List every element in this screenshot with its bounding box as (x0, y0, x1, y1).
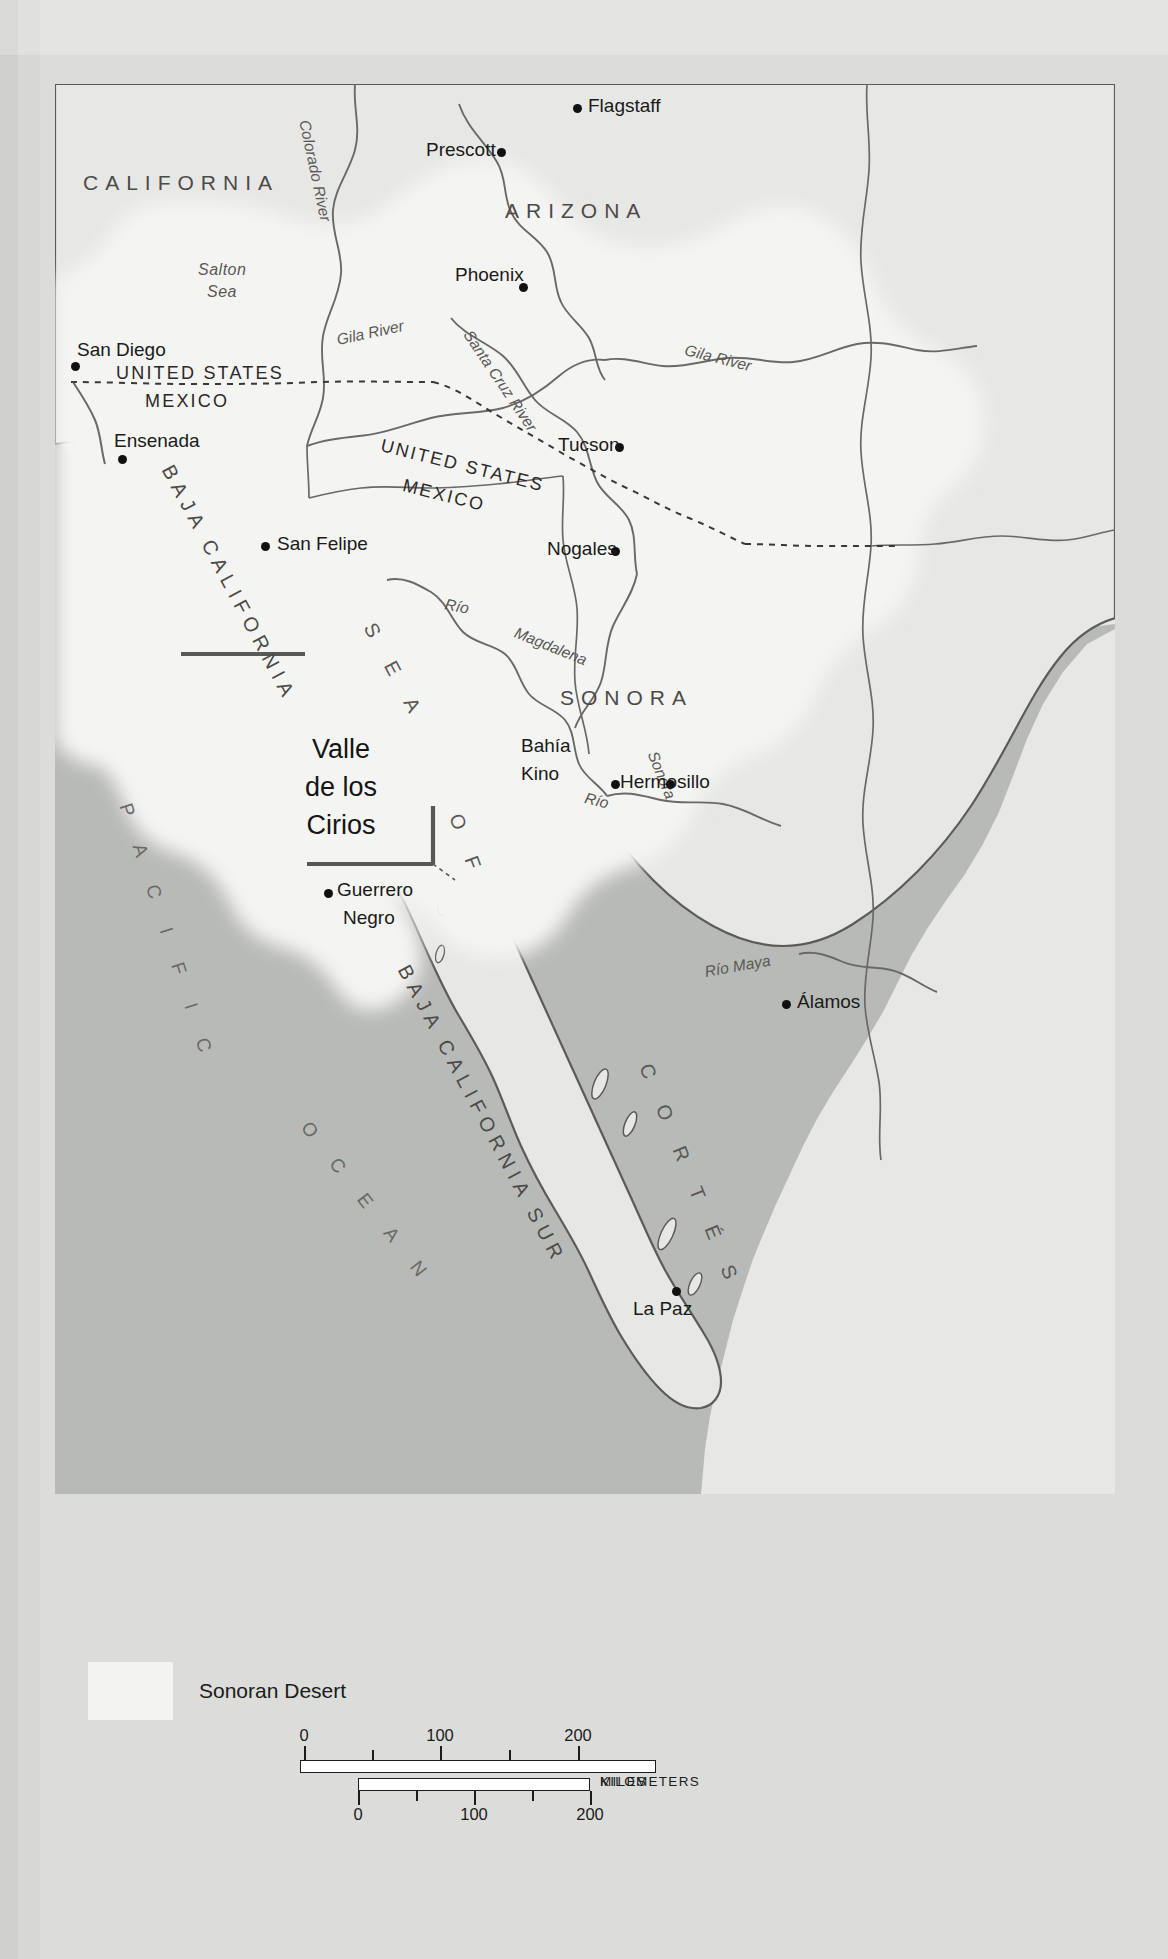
reserve-label-line3: Cirios (271, 808, 411, 843)
city-dot-san-felipe[interactable] (261, 542, 270, 551)
city-dot-san-diego[interactable] (71, 362, 80, 371)
scale-km-label-200: 200 (576, 1805, 604, 1824)
city-dot-bahia-kino[interactable] (611, 780, 620, 789)
reserve-label-line2: de los (271, 770, 411, 805)
salton-sea-label-line1: Salton (198, 262, 246, 279)
city-label-alamos: Álamos (797, 992, 860, 1012)
legend: Sonoran Desert (88, 1662, 346, 1720)
map-page: CALIFORNIA ARIZONA SONORA BAJA CALIFORNI… (0, 0, 1168, 1959)
city-label-san-felipe: San Felipe (277, 534, 368, 554)
scale-unit-kilometers: KILOMETERS (600, 1774, 700, 1789)
reserve-label-line1: Valle (271, 732, 411, 767)
city-label-prescott: Prescott (426, 140, 496, 160)
city-dot-prescott[interactable] (497, 148, 506, 157)
legend-swatch-sonoran-desert (88, 1662, 173, 1720)
scale-km-ticks (358, 1791, 660, 1805)
city-label-nogales: Nogales (547, 539, 617, 559)
city-label-flagstaff: Flagstaff (588, 96, 661, 116)
city-dot-la-paz[interactable] (672, 1287, 681, 1296)
city-dot-guerrero-negro[interactable] (324, 889, 333, 898)
city-dot-flagstaff[interactable] (573, 104, 582, 113)
border-label-mx-1: MEXICO (145, 392, 229, 411)
scale-miles-bar (300, 1760, 656, 1773)
border-label-us-1: UNITED STATES (116, 364, 284, 383)
scale-miles-label-100: 100 (426, 1726, 454, 1745)
city-label-bahia: Bahía (521, 736, 571, 756)
state-label-arizona: ARIZONA (505, 200, 647, 222)
city-label-ensenada: Ensenada (114, 431, 200, 451)
map-canvas[interactable]: CALIFORNIA ARIZONA SONORA BAJA CALIFORNI… (55, 84, 1115, 1494)
city-label-san-diego: San Diego (77, 340, 166, 360)
scale-miles-ticks (300, 1746, 660, 1760)
scale-bar: 0 100 200 MILES 0 100 20 (300, 1726, 660, 1825)
city-label-guerrero: Guerrero (337, 880, 413, 900)
city-dot-ensenada[interactable] (118, 455, 127, 464)
city-label-kino: Kino (521, 764, 559, 784)
salton-sea-label-line2: Sea (207, 284, 237, 301)
city-label-negro: Negro (343, 908, 395, 928)
scale-km-numbers: 0 100 200 (358, 1805, 660, 1825)
city-label-hermosillo: Hermosillo (620, 772, 710, 792)
legend-label-sonoran-desert: Sonoran Desert (199, 1679, 346, 1703)
scale-km-bar (358, 1778, 590, 1791)
scale-miles-label-200: 200 (564, 1726, 592, 1745)
city-label-la-paz: La Paz (633, 1299, 692, 1319)
scale-miles-label-0: 0 (299, 1726, 308, 1745)
scale-km-label-0: 0 (353, 1805, 362, 1824)
state-label-california: CALIFORNIA (83, 172, 279, 194)
city-label-phoenix: Phoenix (455, 265, 524, 285)
state-label-sonora: SONORA (560, 687, 693, 709)
city-dot-alamos[interactable] (782, 1000, 791, 1009)
scale-km-label-100: 100 (460, 1805, 488, 1824)
city-label-tucson: Tucson (558, 435, 620, 455)
scale-miles-numbers: 0 100 200 (300, 1726, 660, 1746)
